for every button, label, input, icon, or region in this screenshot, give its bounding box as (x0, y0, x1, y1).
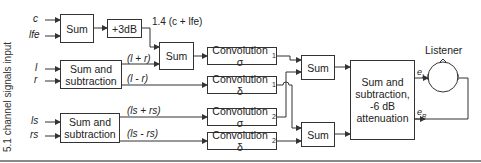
label-l-minus-r: (l - r) (127, 73, 148, 84)
input-r: r (34, 74, 37, 85)
conv-delta2-block: Convolution δ2 (207, 132, 277, 150)
conv-sigma2-block: Convolution σ2 (207, 108, 277, 126)
conv-sigma1-label: Convolution σ (208, 44, 272, 68)
bottom-divider (0, 160, 481, 162)
label-ls-plus-rs: (ls + rs) (127, 105, 161, 116)
input-lfe: lfe (29, 29, 40, 40)
conv-delta2-label: Convolution δ (208, 129, 272, 153)
signal-flow-diagram: 5.1 channel signals input c lfe l r ls r… (0, 0, 481, 163)
label-eL: eL (417, 67, 425, 79)
conv-delta1-label: Convolution δ (208, 73, 272, 97)
sum-c-lfe-block: Sum (60, 14, 94, 43)
sumsub-front-block: Sum and subtraction (60, 60, 122, 89)
label-ls-minus-rs: (ls - rs) (127, 128, 158, 139)
sum-left-block: Sum (301, 55, 335, 80)
label-l-plus-r: (l + r) (127, 53, 151, 64)
side-label: 5.1 channel signals input (2, 42, 13, 152)
listener-label: Listener (425, 44, 462, 56)
listener-head-icon (428, 62, 458, 92)
sum-right-block: Sum (301, 122, 335, 147)
input-l: l (35, 62, 37, 73)
final-sumsub-attenuation-block: Sum and subtraction, -6 dB attenuation (350, 60, 415, 140)
gain-3db-block: +3dB (107, 19, 142, 38)
sumsub-rear-block: Sum and subtraction (60, 113, 120, 143)
input-ls: ls (31, 115, 38, 126)
conv-sigma2-label: Convolution σ (208, 105, 272, 129)
conv-sigma1-block: Convolution σ1 (207, 47, 277, 65)
sum-front-block: Sum (159, 42, 194, 70)
label-center-lfe: 1.4 (c + lfe) (152, 16, 202, 27)
label-eR: eR (417, 107, 426, 119)
input-c: c (33, 13, 38, 24)
conv-delta1-block: Convolution δ1 (207, 76, 277, 94)
input-rs: rs (30, 129, 38, 140)
